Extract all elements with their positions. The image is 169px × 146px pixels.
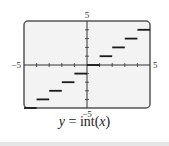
divider [0,142,169,146]
y-max-label: 5 [85,10,90,20]
function-caption: y = int(x) [0,114,169,130]
caption-close: ) [106,114,111,129]
caption-eq: = int( [65,114,99,129]
x-max-label: 5 [153,60,158,70]
x-min-label: −5 [11,60,21,70]
